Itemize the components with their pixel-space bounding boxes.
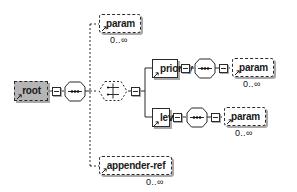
- choice-compositor-icon: [98, 80, 128, 102]
- toggle-priority[interactable]: [181, 64, 190, 73]
- xsd-tree-diagram: root param 0..∞: [0, 0, 297, 192]
- element-param-priority[interactable]: param: [232, 58, 274, 77]
- sequence-compositor-icon: [186, 107, 208, 128]
- compositor-root-sequence[interactable]: [64, 81, 86, 102]
- toggle-choice[interactable]: [131, 87, 140, 96]
- element-param-priority-label: param: [235, 63, 271, 73]
- compositor-level-sequence[interactable]: [186, 107, 208, 128]
- occurs-param-level: 0..∞: [235, 128, 253, 138]
- toggle-root[interactable]: [52, 87, 61, 96]
- element-marker-arrow-icon: [227, 119, 232, 124]
- element-param-level-label: param: [227, 112, 263, 122]
- element-marker-arrow-icon: [154, 121, 159, 126]
- sequence-compositor-icon: [64, 81, 86, 102]
- element-param-top[interactable]: param: [99, 14, 141, 33]
- element-marker-arrow-icon: [235, 70, 240, 75]
- element-appender-ref-label: appender-ref: [103, 161, 169, 171]
- sequence-compositor-icon: [194, 58, 216, 79]
- compositor-priority-sequence[interactable]: [194, 58, 216, 79]
- toggle-priority-param[interactable]: [219, 64, 228, 73]
- element-appender-ref[interactable]: appender-ref: [99, 156, 172, 175]
- occurs-appender-ref: 0..∞: [146, 177, 164, 187]
- toggle-level-param[interactable]: [211, 113, 220, 122]
- element-marker-arrow-icon: [154, 72, 159, 77]
- element-param-top-label: param: [102, 19, 138, 29]
- element-marker-arrow-icon: [102, 26, 107, 31]
- element-marker-arrow-icon: [17, 94, 22, 99]
- compositor-choice[interactable]: [98, 80, 128, 102]
- element-param-level[interactable]: param: [224, 107, 266, 126]
- occurs-param-top: 0..∞: [110, 35, 128, 45]
- element-root-label: root: [18, 86, 44, 96]
- element-marker-arrow-icon: [102, 168, 107, 173]
- occurs-param-priority: 0..∞: [243, 79, 261, 89]
- toggle-level[interactable]: [173, 113, 182, 122]
- element-priority-labelwrap: priority: [152, 59, 178, 78]
- element-root[interactable]: root: [14, 81, 48, 101]
- element-level-labelwrap: level: [152, 108, 170, 127]
